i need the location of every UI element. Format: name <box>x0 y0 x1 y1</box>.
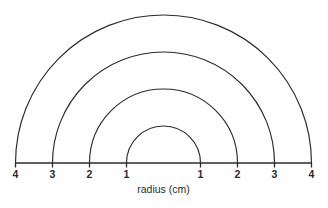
semicircle-arc-r1 <box>127 126 201 163</box>
arc-diagram-figure: 4 3 2 1 1 2 3 4 radius (cm) <box>0 0 328 208</box>
semicircle-arc-r3 <box>53 52 275 163</box>
axis-tick-label-right-1: 1 <box>198 168 204 180</box>
axis-tick-label-right-4: 4 <box>309 168 315 180</box>
axis-title-radius: radius (cm) <box>137 183 190 195</box>
axis-tick-label-left-1: 1 <box>124 168 130 180</box>
axis-tick-label-left-2: 2 <box>87 168 93 180</box>
semicircle-arcs-group <box>16 15 312 163</box>
axis-tick-label-right-2: 2 <box>235 168 241 180</box>
axis-tick-label-left-3: 3 <box>50 168 56 180</box>
axis-tick-label-right-3: 3 <box>272 168 278 180</box>
axis-tick-label-left-4: 4 <box>13 168 19 180</box>
radius-axis-group <box>16 163 312 168</box>
arc-diagram-canvas: 4 3 2 1 1 2 3 4 radius (cm) <box>0 0 328 208</box>
axis-tick-labels-group: 4 3 2 1 1 2 3 4 <box>13 168 315 180</box>
